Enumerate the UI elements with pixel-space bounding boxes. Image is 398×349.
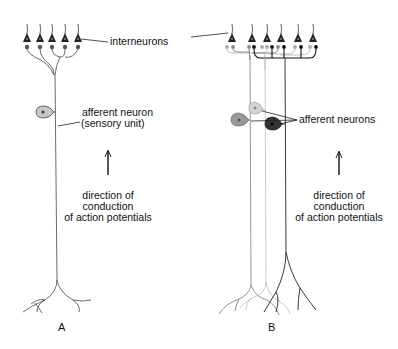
panel-label-a: A — [58, 321, 65, 333]
panel-label-b: B — [268, 321, 275, 333]
panel-a-neuron — [23, 24, 111, 313]
direction-label-a-line3: of action potentials — [58, 212, 158, 223]
interneuron-cells-a — [23, 24, 82, 42]
panel-b-neurons — [191, 24, 342, 315]
afferent-neurons-label: afferent neurons — [299, 114, 375, 125]
interneurons-label: interneurons — [110, 36, 168, 47]
interneuron-cells-b — [228, 24, 317, 42]
direction-label-b-line3: of action potentials — [289, 212, 389, 223]
sensory-unit-label: (sensory unit) — [81, 118, 145, 129]
neuron-diagram — [0, 0, 398, 349]
